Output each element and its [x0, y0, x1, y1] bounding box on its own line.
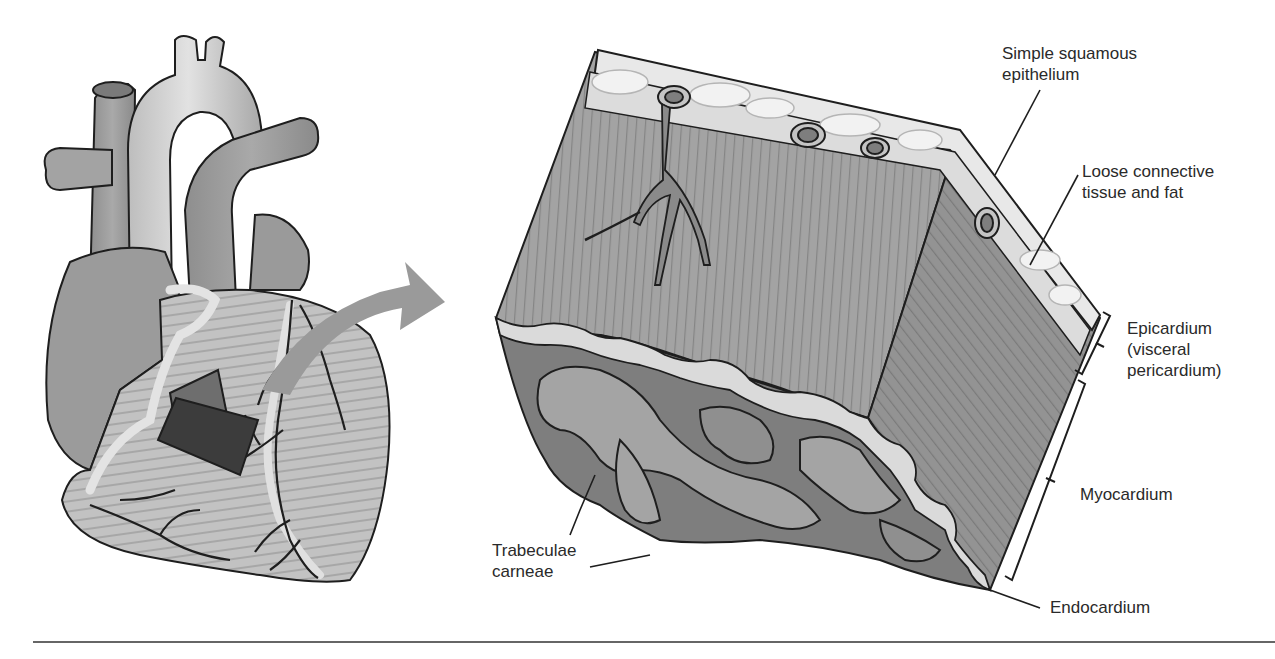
label-line: carneae	[492, 561, 576, 582]
label-line: Loose connective	[1082, 161, 1214, 182]
wall-section	[496, 50, 1110, 608]
label-line: pericardium)	[1127, 360, 1221, 381]
label-line: Simple squamous	[1002, 43, 1137, 64]
label-line: Trabeculae	[492, 540, 576, 561]
label-line: Epicardium	[1127, 318, 1221, 339]
label-myocardium: Myocardium	[1080, 484, 1173, 505]
label-endocardium: Endocardium	[1050, 597, 1150, 618]
label-simple-squamous-epithelium: Simple squamous epithelium	[1002, 43, 1137, 85]
bottom-divider	[33, 641, 1275, 643]
label-line: epithelium	[1002, 64, 1137, 85]
label-line: tissue and fat	[1082, 182, 1214, 203]
label-line: (visceral	[1127, 339, 1221, 360]
label-loose-connective-tissue: Loose connective tissue and fat	[1082, 161, 1214, 203]
heart-illustration	[45, 36, 445, 582]
label-trabeculae-carneae: Trabeculae carneae	[492, 540, 576, 582]
label-epicardium: Epicardium (visceral pericardium)	[1127, 318, 1221, 381]
